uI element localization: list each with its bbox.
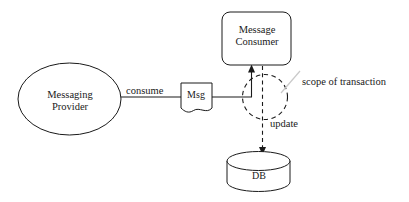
- scope-of-transaction-annotation-label: scope of transaction: [302, 76, 386, 88]
- message-consumer-label: Message Consumer: [223, 24, 291, 48]
- msg-to-consumer-arrowhead: [248, 65, 255, 73]
- msg-to-consumer-connector: [212, 71, 252, 97]
- db-cylinder-top[interactable]: [227, 152, 290, 171]
- messaging-provider-label-line1: Messaging: [31, 89, 109, 101]
- messaging-provider-label: Messaging Provider: [31, 89, 109, 113]
- message-consumer-label-line1: Message: [223, 24, 291, 36]
- messaging-provider-label-line2: Provider: [31, 101, 109, 113]
- msg-label: Msg: [182, 89, 210, 100]
- message-consumer-label-line2: Consumer: [223, 36, 291, 48]
- update-edge-label: update: [270, 118, 298, 130]
- diagram-canvas: Messaging Provider Message Consumer Msg …: [0, 0, 409, 202]
- db-label: DB: [240, 170, 278, 181]
- consume-edge-label: consume: [126, 85, 163, 97]
- scope-of-transaction-leader-line: [281, 71, 300, 93]
